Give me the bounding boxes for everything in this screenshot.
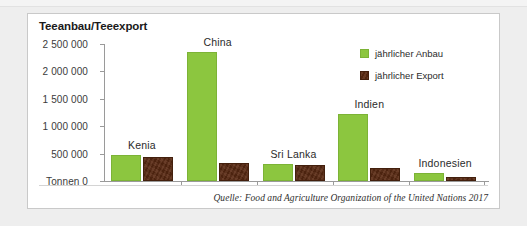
legend-swatch-export	[360, 71, 369, 80]
chart-legend: jährlicher Anbaujährlicher Export	[360, 48, 444, 92]
source-divider	[39, 185, 488, 186]
category-label: Kenia	[93, 139, 191, 151]
bar-anbau	[111, 155, 141, 181]
y-axis-labels: Tonnen 0500 0001 000 0001 500 0002 000 0…	[20, 44, 96, 181]
bar-export	[370, 168, 400, 181]
category-label: China	[169, 36, 267, 48]
y-tick-label: 1 500 000	[43, 93, 88, 104]
y-tick-label: 500 000	[51, 148, 88, 159]
bar-anbau	[187, 52, 217, 181]
y-tick-label: 2 500 000	[43, 39, 88, 50]
y-tick	[100, 99, 105, 100]
category-label: Sri Lanka	[245, 148, 343, 160]
bar-anbau	[263, 164, 293, 181]
bar-export	[219, 163, 249, 181]
bar-anbau	[338, 114, 368, 181]
y-axis-line	[104, 44, 105, 181]
y-tick-label: 2 000 000	[43, 66, 88, 77]
y-tick	[100, 154, 105, 155]
bar-anbau	[414, 173, 444, 181]
bar-export	[446, 177, 476, 181]
legend-item: jährlicher Anbau	[360, 48, 444, 59]
y-tick	[100, 181, 105, 182]
y-tick-label: 1 000 000	[43, 121, 88, 132]
y-tick	[100, 44, 105, 45]
category-label: Indien	[320, 98, 418, 110]
y-tick	[100, 71, 105, 72]
page-root: Teeanbau/Teeexport Tonnen 0500 0001 000 …	[0, 0, 527, 226]
x-axis-line	[104, 181, 489, 182]
bar-export	[143, 157, 173, 181]
legend-label: jährlicher Anbau	[375, 48, 443, 59]
chart-card: Teeanbau/Teeexport Tonnen 0500 0001 000 …	[27, 13, 500, 209]
page-top-strip	[0, 0, 527, 7]
legend-label: jährlicher Export	[375, 70, 444, 81]
category-label: Indonesien	[396, 157, 494, 169]
legend-item: jährlicher Export	[360, 70, 444, 81]
legend-swatch-anbau	[360, 49, 369, 58]
y-tick	[100, 126, 105, 127]
bar-export	[295, 165, 325, 181]
source-note: Quelle: Food and Agriculture Organizatio…	[213, 193, 488, 203]
chart-title: Teeanbau/Teeexport	[39, 20, 147, 32]
